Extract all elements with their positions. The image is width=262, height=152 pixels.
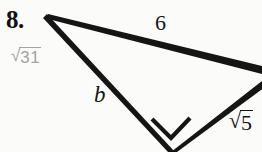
right-triangle-figure: [0, 0, 262, 152]
side-label-left: b: [94, 83, 106, 106]
side-right-radicand: 5: [240, 110, 253, 134]
answer-annotation: √31: [11, 47, 41, 66]
side-label-right: √5: [229, 110, 253, 134]
side-right-radical: √5: [229, 110, 253, 134]
problem-number: 8.: [6, 7, 24, 32]
side-label-top: 6: [155, 12, 166, 34]
worksheet-page: 8. √31 6 b √5: [0, 0, 262, 152]
answer-radical: √31: [11, 47, 41, 66]
answer-radicand: 31: [19, 47, 41, 66]
